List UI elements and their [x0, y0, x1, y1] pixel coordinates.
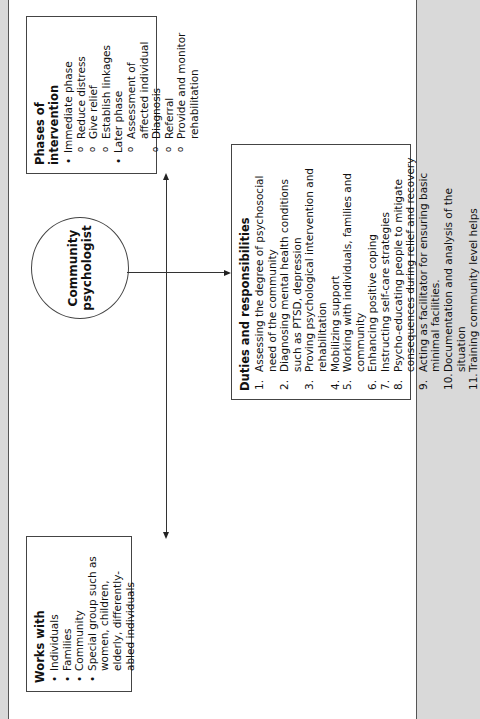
diagram-canvas: Phases of intervention Immediate phase R…	[9, 0, 418, 719]
phase-item: Assessment of affected individual	[125, 25, 150, 165]
community-psychologist-node: Community psychologist	[31, 217, 129, 319]
phase-item: Referral	[163, 25, 176, 165]
arrow-left-icon	[163, 532, 169, 539]
duties-heading: Duties and responsibilities	[238, 153, 252, 391]
duty-item: 6.Enhancing positive coping	[366, 153, 379, 391]
arrow-right-icon	[163, 173, 169, 180]
duties-responsibilities-box: Duties and responsibilities 1.Assessing …	[231, 144, 411, 400]
page: Phases of intervention Immediate phase R…	[8, 0, 417, 719]
phases-of-intervention-box: Phases of intervention Immediate phase R…	[26, 16, 157, 174]
works-with-item: Special group such as women, children, e…	[86, 545, 136, 683]
duty-item: 8.Psycho-educating people to mitigate co…	[392, 153, 417, 391]
duty-item: 1.Assessing the degree of psychosocial n…	[253, 153, 278, 391]
duty-item: 9.Acting as facilitator for ensuring bas…	[417, 153, 442, 391]
center-title-line2: psychologist	[80, 225, 94, 310]
works-with-box: Works with Individuals Families Communit…	[26, 536, 132, 692]
connector-horizontal	[166, 180, 167, 534]
works-with-heading: Works with	[33, 545, 47, 683]
phases-heading: Phases of intervention	[33, 25, 61, 165]
duty-item: 7.Instructing self-care strategies	[379, 153, 392, 391]
phase-immediate: Immediate phase	[62, 25, 75, 165]
works-with-item: Individuals	[48, 545, 61, 683]
duty-item: 11.Training community level helps	[467, 153, 480, 391]
phase-item: Diagnosis	[150, 25, 163, 165]
duty-item: 2.Diagnosing mental health conditions su…	[278, 153, 303, 391]
arrow-down-icon	[224, 270, 231, 276]
phase-item: Reduce distress	[75, 25, 88, 165]
phase-item: Provide and monitor rehabilitation	[175, 25, 200, 165]
phase-item: Establish linkages	[100, 25, 113, 165]
duty-item: 5.Working with individuals, families and…	[341, 153, 366, 391]
works-with-item: Community	[73, 545, 86, 683]
duty-item: 10.Documentation and analysis of the sit…	[442, 153, 467, 391]
phase-later: Later phase	[112, 25, 125, 165]
center-title-line1: Community	[66, 225, 80, 310]
duty-item: 4.Mobilizing support	[329, 153, 342, 391]
connector-vertical	[127, 272, 225, 273]
phase-item: Give relief	[87, 25, 100, 165]
duty-item: 3.Proving psychological intervention and…	[303, 153, 328, 391]
works-with-item: Families	[61, 545, 74, 683]
